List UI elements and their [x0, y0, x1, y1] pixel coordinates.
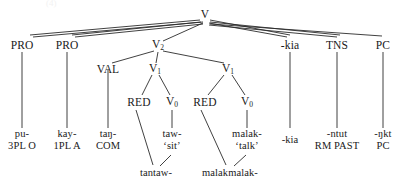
branch-red2-malakmalak [201, 110, 226, 165]
branch-root-kia-a [210, 20, 290, 35]
leaf-taw-gloss: ‘sit’ [162, 141, 181, 152]
node-val-label: VAL [97, 63, 119, 75]
branch-v1a-red1 [142, 75, 152, 95]
branch-root-pro2-b [75, 24, 203, 37]
node-v2: V2 [152, 38, 164, 51]
leaf-tang-form: taŋ- [96, 128, 120, 139]
branch-v2-v1a [156, 52, 158, 63]
branch-taw-tantaw [160, 155, 171, 166]
node-v2-subscript: 2 [160, 43, 164, 52]
node-kia-label: -kia [281, 39, 299, 51]
branch-root-pc [210, 24, 382, 36]
syntactic-tree-diagram: (4) [0, 0, 399, 186]
node-pro-2-label: PRO [56, 39, 79, 51]
node-red-left: RED [127, 96, 150, 108]
node-v1-left-subscript: 1 [157, 67, 161, 76]
leaf-pu-form: pu- [8, 128, 36, 139]
node-v0-right: V0 [241, 95, 253, 108]
branch-v2-val [112, 51, 154, 63]
leaf-ngkt: -ŋkt PC [374, 128, 391, 151]
branch-v1b-v0b [232, 75, 245, 95]
compound-malakmalak: malakmalak- [202, 167, 258, 178]
leaf-malak-gloss: ‘talk’ [232, 141, 262, 152]
leaf-ntut-form: -ntut [315, 128, 359, 139]
node-red-left-label: RED [127, 96, 150, 108]
node-v1-right: V1 [222, 62, 234, 75]
leaf-kay-form: kay- [53, 128, 80, 139]
leaf-tang: taŋ- COM [96, 128, 120, 151]
node-kia: -kia [281, 39, 299, 51]
leaf-malak-form: malak- [232, 128, 262, 139]
node-tns-label: TNS [326, 39, 348, 51]
leaf-ngkt-gloss: PC [374, 141, 391, 152]
node-root-v: V [201, 8, 209, 20]
compound-malakmalak-text: malakmalak- [202, 167, 258, 178]
leaf-kia: -kia [282, 134, 299, 146]
node-v0-left: V0 [166, 95, 178, 108]
leaf-taw-form: taw- [162, 128, 181, 139]
node-v0-right-subscript: 0 [249, 100, 253, 109]
leaf-ngkt-form: -ŋkt [374, 128, 391, 139]
node-red-right-label: RED [193, 96, 216, 108]
leaf-pu: pu- 3PL O [8, 128, 36, 151]
leaf-kia-form: -kia [282, 134, 299, 145]
branch-v2-v1b [163, 51, 224, 63]
node-pro-1: PRO [11, 39, 34, 51]
leaf-malak: malak- ‘talk’ [232, 128, 262, 151]
node-pro-1-label: PRO [11, 39, 34, 51]
leaf-kay: kay- 1PL A [53, 128, 80, 151]
node-tns: TNS [326, 39, 348, 51]
leaf-ntut-gloss: RM PAST [315, 141, 359, 152]
branch-malak-malakmalak [234, 155, 246, 166]
node-v1-right-subscript: 1 [230, 67, 234, 76]
node-v0-left-subscript: 0 [174, 100, 178, 109]
leaf-tang-gloss: COM [96, 141, 120, 152]
branch-v1a-v0a [159, 75, 170, 95]
node-root-v-label: V [201, 8, 209, 20]
leaf-kay-gloss: 1PL A [53, 141, 80, 152]
tree-branch-lines [0, 0, 399, 186]
node-val: VAL [97, 63, 119, 75]
compound-tantaw: tantaw- [140, 167, 172, 178]
node-red-right: RED [193, 96, 216, 108]
node-v1-left: V1 [149, 62, 161, 75]
branch-red1-tantaw [136, 110, 153, 165]
node-pc: PC [376, 39, 390, 51]
leaf-ntut: -ntut RM PAST [315, 128, 359, 151]
branch-root-tns-b [209, 25, 337, 37]
branch-v1b-red2 [208, 75, 224, 95]
node-pro-2: PRO [56, 39, 79, 51]
compound-tantaw-text: tantaw- [140, 167, 172, 178]
leaf-taw: taw- ‘sit’ [162, 128, 181, 151]
leaf-pu-gloss: 3PL O [8, 141, 36, 152]
node-pc-label: PC [376, 39, 390, 51]
